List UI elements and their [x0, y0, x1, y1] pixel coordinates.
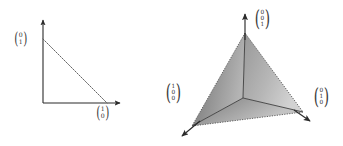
right-figure-3d-simplex: [182, 14, 310, 136]
x-axis-arrow: [182, 121, 200, 136]
figure-canvas: [0, 0, 343, 146]
left-figure-2d-simplex: [43, 20, 120, 103]
simplex-hypotenuse-dashed: [43, 39, 107, 103]
